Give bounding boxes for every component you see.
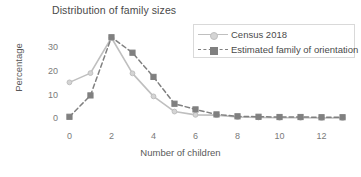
data-point-marker (256, 114, 261, 119)
data-point-marker (193, 112, 198, 117)
data-point-marker (298, 114, 303, 119)
data-point-marker (193, 107, 198, 112)
chart-container: Distribution of family sizes Percentage … (0, 0, 361, 177)
x-axis-label: Number of children (0, 147, 361, 158)
data-point-marker (67, 114, 72, 119)
legend-key-estimated-icon (198, 44, 228, 56)
data-point-marker (151, 94, 156, 99)
data-point-marker (172, 101, 177, 106)
legend-label-estimated: Estimated family of orientation (228, 44, 358, 55)
data-point-marker (130, 71, 135, 76)
data-point-marker (340, 115, 345, 120)
data-point-marker (214, 112, 219, 117)
legend-label-census: Census 2018 (228, 29, 287, 40)
legend-key-census-icon (198, 29, 228, 41)
data-point-marker (172, 109, 177, 114)
data-point-marker (67, 80, 72, 85)
data-point-marker (88, 93, 93, 98)
data-point-marker (319, 115, 324, 120)
legend-item-census: Census 2018 (198, 27, 287, 42)
data-point-marker (88, 71, 93, 76)
legend: Census 2018 Estimated family of orientat… (193, 24, 355, 58)
data-point-marker (277, 114, 282, 119)
data-point-marker (151, 74, 156, 79)
legend-item-estimated: Estimated family of orientation (198, 42, 358, 57)
data-point-marker (130, 50, 135, 55)
data-point-marker (235, 114, 240, 119)
data-point-marker (109, 35, 114, 40)
